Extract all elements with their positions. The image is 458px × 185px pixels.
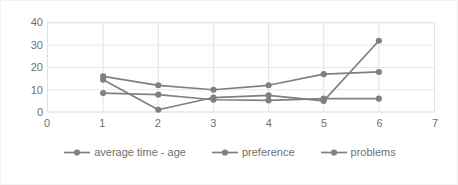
x-axis-tick-label: 1 (87, 117, 117, 129)
x-axis-labels: 01234567 (47, 117, 435, 133)
y-axis-tick-label: 20 (3, 62, 43, 73)
y-axis-tick-label: 10 (3, 84, 43, 95)
legend-marker-icon (321, 148, 347, 157)
legend-item[interactable]: problems (321, 146, 396, 158)
y-axis-tick-label: 30 (3, 39, 43, 50)
legend-item-label: problems (351, 146, 396, 158)
legend-marker-icon (212, 148, 238, 157)
x-axis-tick-label: 6 (365, 117, 395, 129)
y-axis-tick-label: 0 (3, 107, 43, 118)
y-axis-labels: 010203040 (1, 22, 43, 112)
data-point-marker (155, 92, 161, 98)
data-point-marker (155, 107, 161, 113)
x-axis-tick-label: 3 (198, 117, 228, 129)
data-point-marker (100, 90, 106, 96)
legend-marker-icon (64, 148, 90, 157)
data-point-marker (376, 38, 382, 44)
chart-container: 010203040 01234567 average time - agepre… (0, 0, 458, 185)
data-point-marker (321, 96, 327, 102)
legend-item[interactable]: average time - age (64, 146, 186, 158)
data-point-marker (100, 73, 106, 79)
data-point-marker (321, 71, 327, 77)
data-point-marker (376, 69, 382, 75)
data-point-marker (210, 97, 216, 103)
legend-item-label: average time - age (94, 146, 186, 158)
y-axis-tick-label: 40 (3, 17, 43, 28)
data-point-marker (210, 87, 216, 93)
series-layer (48, 23, 434, 112)
legend-item-label: preference (242, 146, 295, 158)
x-axis-tick-label: 7 (420, 117, 450, 129)
data-point-marker (155, 82, 161, 88)
data-point-marker (265, 97, 271, 103)
chart-legend: average time - agepreferenceproblems (1, 146, 458, 158)
x-axis-tick-label: 5 (309, 117, 339, 129)
x-axis-tick-label: 4 (254, 117, 284, 129)
legend-item[interactable]: preference (212, 146, 295, 158)
data-point-marker (265, 82, 271, 88)
plot-area (47, 22, 435, 112)
x-axis-tick-label: 2 (143, 117, 173, 129)
data-point-marker (376, 96, 382, 102)
x-axis-tick-label: 0 (32, 117, 62, 129)
